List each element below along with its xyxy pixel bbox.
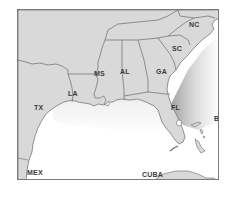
label-la: LA — [68, 90, 78, 97]
lake-okeechobee — [177, 120, 182, 126]
label-nc: NC — [189, 21, 200, 28]
label-mex: MEX — [27, 169, 43, 176]
label-al: AL — [120, 68, 130, 75]
label-cuba: CUBA — [142, 171, 163, 178]
label-ga: GA — [156, 68, 167, 75]
label-fl: FL — [171, 104, 180, 111]
label-bah: BAH — [214, 115, 219, 122]
label-sc: SC — [172, 45, 182, 52]
map-frame: NC SC GA AL MS LA TX FL BAH MEX CUBA — [17, 9, 219, 180]
map-graphic — [18, 10, 219, 180]
label-ms: MS — [94, 70, 105, 77]
label-tx: TX — [34, 104, 43, 111]
